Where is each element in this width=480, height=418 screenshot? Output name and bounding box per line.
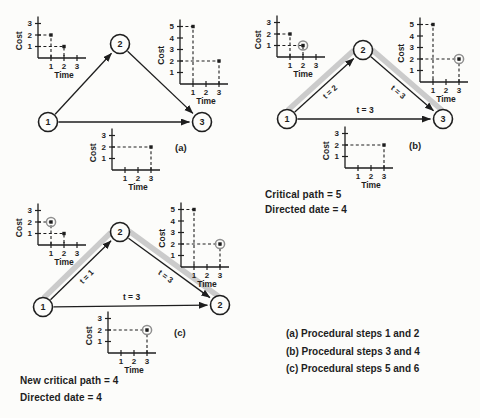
x-tick-label: 1 bbox=[191, 88, 196, 97]
chart-b-activity-1-3: 123123CostTime bbox=[321, 127, 393, 191]
y-axis-title: Cost bbox=[88, 143, 98, 162]
x-tick-label: 1 bbox=[123, 174, 128, 183]
y-tick-label: 4 bbox=[171, 217, 176, 226]
node-label: 1 bbox=[45, 117, 50, 127]
x-tick-label: 3 bbox=[217, 88, 222, 97]
x-tick-label: 3 bbox=[75, 62, 80, 71]
x-axis-title: Time bbox=[54, 257, 74, 267]
data-point bbox=[431, 23, 434, 26]
y-tick-label: 2 bbox=[28, 31, 33, 40]
y-tick-label: 5 bbox=[170, 22, 175, 31]
data-point bbox=[457, 57, 460, 60]
chart-c-activity-1-3: 123123CostTime bbox=[84, 312, 156, 376]
y-axis-title: Cost bbox=[253, 30, 263, 49]
chart-b-activity-2-3: 12345123CostTime bbox=[396, 18, 468, 105]
y-axis-title: Cost bbox=[321, 141, 331, 160]
panel-label-b: (b) bbox=[409, 140, 421, 151]
panel-label-c: (c) bbox=[174, 327, 186, 338]
y-tick-label: 3 bbox=[410, 43, 415, 52]
y-tick-label: 1 bbox=[170, 68, 175, 77]
node-label: 1 bbox=[40, 302, 45, 312]
y-tick-label: 2 bbox=[98, 326, 103, 335]
data-point bbox=[218, 242, 221, 245]
edge-label: t = 3 bbox=[356, 105, 374, 115]
x-axis-title: Time bbox=[196, 96, 216, 106]
dashed-guide bbox=[180, 61, 219, 84]
y-tick-label: 3 bbox=[267, 18, 272, 27]
node-label: 2 bbox=[117, 39, 122, 49]
data-point bbox=[301, 44, 304, 47]
y-tick-label: 3 bbox=[335, 129, 340, 138]
network-b: t = 2t = 3t = 3123 bbox=[278, 41, 453, 129]
critical-path-note: Critical path = 5 bbox=[265, 189, 341, 200]
x-tick-label: 1 bbox=[49, 62, 54, 71]
chart-a-activity-2-3: 12345123CostTime bbox=[156, 20, 228, 107]
edge-arrow bbox=[371, 57, 434, 111]
x-tick-label: 1 bbox=[49, 249, 54, 258]
dashed-guide bbox=[108, 330, 147, 353]
y-tick-label: 3 bbox=[171, 228, 176, 237]
x-tick-label: 3 bbox=[314, 61, 319, 70]
data-point bbox=[382, 143, 385, 146]
dashed-guide bbox=[112, 147, 151, 170]
y-tick-label: 1 bbox=[102, 154, 107, 163]
caption-b: (b) Procedural steps 3 and 4 bbox=[286, 343, 420, 361]
y-tick-label: 1 bbox=[28, 229, 33, 238]
panel-label-a: (a) bbox=[175, 142, 187, 153]
y-tick-label: 3 bbox=[170, 45, 175, 54]
x-tick-label: 3 bbox=[218, 271, 223, 280]
x-axis-title: Time bbox=[128, 182, 148, 192]
y-tick-label: 1 bbox=[335, 152, 340, 161]
caption-list: (a) Procedural steps 1 and 2 (b) Procedu… bbox=[286, 325, 420, 378]
chart-a-activity-1-3: 123123CostTime bbox=[88, 129, 160, 193]
edge-arrow bbox=[53, 305, 207, 307]
x-tick-label: 3 bbox=[382, 172, 387, 181]
node-label: 3 bbox=[440, 114, 445, 124]
y-tick-label: 2 bbox=[171, 240, 176, 249]
node-label: 1 bbox=[284, 114, 289, 124]
x-axis-title: Time bbox=[361, 180, 381, 190]
y-tick-label: 1 bbox=[28, 42, 33, 51]
y-axis-title: Cost bbox=[156, 46, 166, 65]
y-tick-label: 3 bbox=[102, 131, 107, 140]
caption-c: (c) Procedural steps 5 and 6 bbox=[286, 360, 420, 378]
y-tick-label: 4 bbox=[170, 34, 175, 43]
data-point bbox=[49, 33, 52, 36]
figure-page: 123123123CostTime12345123CostTime123123C… bbox=[0, 0, 480, 418]
x-tick-label: 1 bbox=[119, 357, 124, 366]
y-tick-label: 4 bbox=[410, 32, 415, 41]
y-tick-label: 1 bbox=[171, 251, 176, 260]
data-point bbox=[145, 328, 148, 331]
y-tick-label: 3 bbox=[98, 314, 103, 323]
y-tick-label: 5 bbox=[410, 20, 415, 29]
data-point bbox=[62, 232, 65, 235]
y-tick-label: 2 bbox=[267, 30, 272, 39]
data-point bbox=[49, 220, 52, 223]
x-axis-title: Time bbox=[197, 279, 217, 289]
y-tick-label: 2 bbox=[170, 57, 175, 66]
dashed-guide bbox=[420, 59, 459, 82]
edge-arrow bbox=[51, 241, 112, 300]
y-tick-label: 3 bbox=[28, 19, 33, 28]
x-tick-label: 1 bbox=[192, 271, 197, 280]
directed-date-note-c: Directed date = 4 bbox=[20, 392, 102, 403]
critical-path-highlight bbox=[288, 50, 354, 110]
dashed-guide bbox=[420, 25, 433, 83]
chart-c-activity-1-2: 123123CostTime bbox=[14, 204, 86, 268]
x-tick-label: 1 bbox=[431, 86, 436, 95]
y-tick-label: 5 bbox=[171, 205, 176, 214]
x-axis-title: Time bbox=[436, 94, 456, 104]
x-axis-title: Time bbox=[293, 69, 313, 79]
directed-date-note-b: Directed date = 4 bbox=[265, 204, 347, 215]
dashed-guide bbox=[181, 210, 194, 268]
y-axis-title: Cost bbox=[14, 218, 24, 237]
y-tick-label: 3 bbox=[28, 206, 33, 215]
x-tick-label: 1 bbox=[288, 61, 293, 70]
x-tick-label: 1 bbox=[356, 172, 361, 181]
y-axis-title: Cost bbox=[14, 31, 24, 50]
y-axis-title: Cost bbox=[84, 326, 94, 345]
data-point bbox=[192, 208, 195, 211]
node-label: 2 bbox=[217, 300, 222, 310]
x-tick-label: 3 bbox=[145, 357, 150, 366]
y-tick-label: 2 bbox=[28, 218, 33, 227]
